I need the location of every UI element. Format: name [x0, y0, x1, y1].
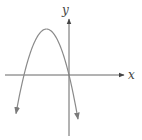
- parabola-right-branch: [47, 29, 79, 119]
- x-axis-label: x: [128, 68, 135, 82]
- parabola-left-branch: [16, 29, 47, 114]
- parabola-graph: x y: [0, 0, 142, 140]
- y-axis-label: y: [61, 3, 69, 17]
